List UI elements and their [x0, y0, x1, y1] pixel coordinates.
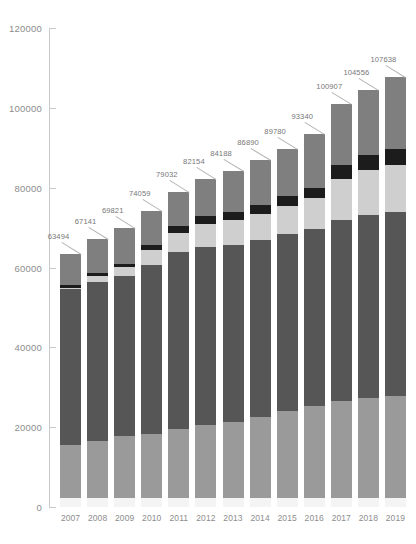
y-axis-tick-label: 120000 — [9, 23, 42, 34]
bar-segment-series-3[interactable] — [223, 245, 244, 422]
bar-segment-series-6[interactable] — [60, 254, 81, 286]
bar-segment-series-4[interactable] — [60, 288, 81, 289]
bar-segment-series-1[interactable] — [304, 498, 325, 507]
bar-segment-series-1[interactable] — [141, 498, 162, 507]
bar-segment-series-4[interactable] — [87, 276, 108, 282]
bar-segment-series-1[interactable] — [168, 498, 189, 507]
bar-segment-series-2[interactable] — [195, 425, 216, 498]
bar-segment-series-2[interactable] — [141, 434, 162, 498]
bar-stack[interactable] — [358, 90, 379, 507]
bar-total-label: 74059 — [129, 189, 151, 198]
bar-segment-series-6[interactable] — [331, 104, 352, 165]
bar-segment-series-5[interactable] — [87, 273, 108, 276]
bar-segment-series-3[interactable] — [87, 282, 108, 441]
bar-segment-series-3[interactable] — [358, 215, 379, 398]
bar-segment-series-1[interactable] — [385, 498, 406, 507]
bar-segment-series-2[interactable] — [358, 398, 379, 498]
bar-segment-series-4[interactable] — [250, 214, 271, 241]
bar-segment-series-2[interactable] — [87, 441, 108, 498]
bar-segment-series-5[interactable] — [331, 165, 352, 179]
bar-segment-series-6[interactable] — [385, 77, 406, 149]
bar-stack[interactable] — [223, 171, 244, 507]
bar-segment-series-3[interactable] — [304, 229, 325, 406]
bar-segment-series-1[interactable] — [223, 498, 244, 507]
bar-segment-series-4[interactable] — [358, 170, 379, 215]
bar-segment-series-2[interactable] — [60, 445, 81, 498]
bar-segment-series-5[interactable] — [168, 226, 189, 233]
bar-segment-series-5[interactable] — [195, 216, 216, 224]
bar-stack[interactable] — [114, 228, 135, 507]
bar-total-label: 107638 — [370, 55, 396, 64]
bar-segment-series-2[interactable] — [277, 411, 298, 498]
bar-segment-series-6[interactable] — [358, 90, 379, 156]
bar-segment-series-6[interactable] — [304, 134, 325, 188]
bar-segment-series-6[interactable] — [223, 171, 244, 212]
bar-segment-series-5[interactable] — [277, 196, 298, 206]
bar-segment-series-6[interactable] — [168, 192, 189, 227]
bar-segment-series-3[interactable] — [114, 276, 135, 436]
bar-stack[interactable] — [141, 211, 162, 507]
bar-segment-series-1[interactable] — [87, 498, 108, 507]
bar-stack[interactable] — [168, 192, 189, 507]
bar-segment-series-4[interactable] — [304, 198, 325, 228]
bar-segment-series-2[interactable] — [223, 422, 244, 498]
bar-stack[interactable] — [60, 254, 81, 507]
y-axis-tick — [49, 108, 56, 109]
bar-stack[interactable] — [385, 77, 406, 507]
bar-stack[interactable] — [195, 179, 216, 507]
bar-segment-series-4[interactable] — [195, 224, 216, 247]
bar-segment-series-1[interactable] — [195, 498, 216, 507]
y-axis-tick-label: 100000 — [9, 102, 42, 113]
bar-segment-series-3[interactable] — [277, 234, 298, 410]
bar-segment-series-3[interactable] — [60, 289, 81, 445]
bar-segment-series-1[interactable] — [331, 498, 352, 507]
bar-segment-series-2[interactable] — [304, 406, 325, 498]
bar-stack[interactable] — [277, 149, 298, 507]
bar-segment-series-6[interactable] — [114, 228, 135, 263]
bar-segment-series-3[interactable] — [141, 265, 162, 434]
bar-segment-series-2[interactable] — [331, 401, 352, 498]
bar-segment-series-2[interactable] — [250, 417, 271, 498]
bar-segment-series-4[interactable] — [168, 233, 189, 252]
label-leader-line — [386, 65, 406, 78]
bar-segment-series-2[interactable] — [385, 396, 406, 498]
y-axis-tick — [49, 268, 56, 269]
bar-segment-series-2[interactable] — [114, 436, 135, 497]
bar-segment-series-1[interactable] — [250, 498, 271, 507]
bar-segment-series-4[interactable] — [331, 179, 352, 220]
bar-segment-series-5[interactable] — [60, 285, 81, 288]
bar-segment-series-5[interactable] — [304, 188, 325, 198]
bar-segment-series-1[interactable] — [277, 498, 298, 507]
bar-stack[interactable] — [331, 104, 352, 507]
bar-segment-series-1[interactable] — [358, 498, 379, 507]
bar-stack[interactable] — [87, 239, 108, 507]
bar-segment-series-6[interactable] — [277, 149, 298, 197]
bar-segment-series-4[interactable] — [385, 165, 406, 213]
bar-segment-series-6[interactable] — [195, 179, 216, 216]
bar-segment-series-2[interactable] — [168, 429, 189, 498]
label-leader-line — [223, 159, 244, 172]
bar-segment-series-4[interactable] — [223, 220, 244, 245]
bar-segment-series-6[interactable] — [87, 239, 108, 273]
bar-stack[interactable] — [250, 160, 271, 507]
bar-segment-series-4[interactable] — [141, 250, 162, 264]
bar-segment-series-6[interactable] — [250, 160, 271, 205]
bar-segment-series-6[interactable] — [141, 211, 162, 245]
bar-segment-series-5[interactable] — [385, 149, 406, 164]
bar-segment-series-5[interactable] — [114, 264, 135, 268]
label-leader-line — [278, 137, 298, 150]
bar-segment-series-5[interactable] — [141, 245, 162, 250]
bar-stack[interactable] — [304, 134, 325, 507]
bar-segment-series-3[interactable] — [250, 240, 271, 417]
bar-segment-series-3[interactable] — [168, 252, 189, 429]
bar-segment-series-1[interactable] — [60, 498, 81, 507]
bar-segment-series-5[interactable] — [250, 205, 271, 214]
bar-segment-series-5[interactable] — [358, 155, 379, 169]
bar-segment-series-4[interactable] — [114, 267, 135, 276]
bar-segment-series-3[interactable] — [385, 212, 406, 396]
bar-segment-series-3[interactable] — [195, 247, 216, 425]
bar-segment-series-4[interactable] — [277, 206, 298, 234]
bar-segment-series-5[interactable] — [223, 212, 244, 220]
bar-segment-series-1[interactable] — [114, 498, 135, 507]
bar-segment-series-3[interactable] — [331, 220, 352, 402]
